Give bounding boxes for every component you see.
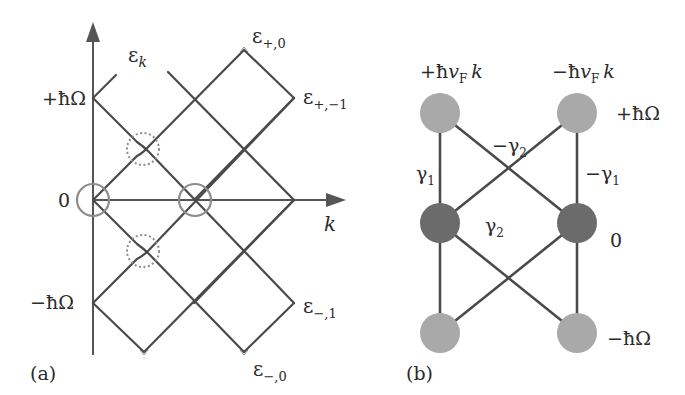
coupling-label-right-vertical: −γ1 [585,162,620,188]
node-middle-left [420,203,460,243]
band-label-minus-0: ε−,0 [253,357,287,384]
figure: εk k +ħΩ 0 −ħΩ ε+,0 ε+,−1 ε−,1 ε−,0 (a) … [0,0,685,395]
node-middle-right [557,203,597,243]
row-label-top: +ħΩ [616,102,660,124]
level-label-plus: +ħΩ [42,87,86,109]
node-bottom-right [557,313,597,353]
column-label-left: +ħvFk [420,60,483,86]
coupling-label-top-cross: −γ2 [492,134,527,160]
node-top-right [557,93,597,133]
panel-a-tag: (a) [30,362,56,384]
row-label-middle: 0 [610,229,622,251]
panel-b-tag: (b) [406,362,433,384]
coupling-label-bottom-cross: γ2 [485,214,504,240]
level-label-minus: −ħΩ [30,291,74,313]
band-label-plus-0: ε+,0 [252,24,286,51]
node-bottom-left [420,313,460,353]
y-axis-label: εk [128,43,147,70]
panel-b: +ħvFk −ħvFk +ħΩ 0 −ħΩ γ1 −γ1 −γ2 γ2 (b) [406,60,660,384]
row-label-bottom: −ħΩ [607,327,651,349]
k-axis-arrow-icon [326,193,346,207]
column-label-right: −ħvFk [552,60,615,86]
coupling-label-left-vertical: γ1 [416,162,435,188]
node-top-left [420,93,460,133]
panel-a: εk k +ħΩ 0 −ħΩ ε+,0 ε+,−1 ε−,1 ε−,0 (a) [30,22,348,384]
band-label-minus-1: ε−,1 [303,294,337,321]
level-label-zero: 0 [58,189,70,211]
k-axis-label: k [324,212,336,236]
band-label-plus-minus1: ε+,−1 [303,85,348,112]
y-axis-arrow-icon [86,22,100,42]
